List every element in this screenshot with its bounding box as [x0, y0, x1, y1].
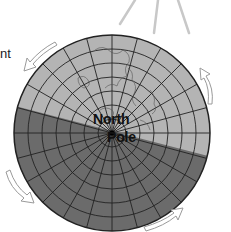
sun-rays: [120, 0, 189, 33]
north-label: North: [93, 111, 129, 127]
pole-label: Pole: [107, 129, 136, 145]
